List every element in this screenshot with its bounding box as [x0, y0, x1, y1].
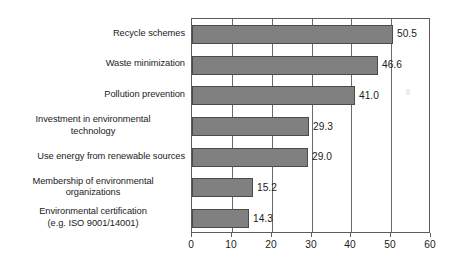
category-label: Recycle schemes [0, 28, 185, 39]
x-axis-tick-labels: 0102030405060 [191, 239, 430, 253]
category-axis-labels: Recycle schemesWaste minimizationPolluti… [0, 18, 189, 233]
plot-area: 50.546.641.029.329.015.214.3 [191, 18, 430, 233]
x-axis-ticks [191, 233, 430, 238]
category-label: Environmental certification (e.g. ISO 90… [0, 206, 186, 229]
gridline-40 [351, 19, 352, 232]
bar-chart: Recycle schemesWaste minimizationPolluti… [0, 0, 453, 261]
category-label: Pollution prevention [0, 89, 185, 100]
bar-value-label: 15.2 [257, 183, 277, 193]
x-tick-label: 30 [305, 239, 316, 251]
x-tick-label: 10 [225, 239, 236, 251]
gridline-50 [391, 19, 392, 232]
bar [192, 148, 308, 167]
bar-value-label: 41.0 [359, 91, 379, 101]
x-tick-10 [231, 233, 232, 237]
x-tick-label: 60 [424, 239, 435, 251]
scan-artifact [406, 89, 410, 95]
bar [192, 178, 253, 197]
bar [192, 209, 249, 228]
x-tick-30 [311, 233, 312, 237]
x-tick-40 [350, 233, 351, 237]
x-tick-50 [390, 233, 391, 237]
x-tick-label: 0 [188, 239, 194, 251]
x-tick-label: 20 [265, 239, 276, 251]
x-tick-label: 50 [384, 239, 395, 251]
bar-value-label: 46.6 [382, 60, 402, 70]
x-tick-label: 40 [344, 239, 355, 251]
category-label: Waste minimization [0, 58, 185, 69]
category-label: Investment in environmental technology [0, 114, 186, 137]
category-label: Membership of environmental organization… [0, 176, 186, 199]
bar-value-label: 29.0 [312, 152, 332, 162]
bar-value-label: 50.5 [397, 29, 417, 39]
bar-value-label: 29.3 [313, 122, 333, 132]
bar-value-label: 14.3 [253, 214, 273, 224]
x-tick-20 [271, 233, 272, 237]
bar [192, 117, 309, 136]
bar [192, 56, 378, 75]
bar [192, 86, 355, 105]
x-tick-0 [191, 233, 192, 237]
x-tick-60 [430, 233, 431, 237]
bar [192, 25, 393, 44]
category-label: Use energy from renewable sources [0, 151, 185, 162]
